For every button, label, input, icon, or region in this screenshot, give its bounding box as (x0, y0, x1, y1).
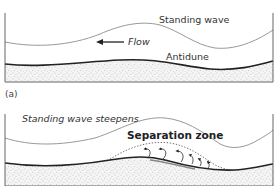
flow-arrow (96, 39, 124, 45)
sediment-bed-a (5, 60, 273, 82)
sediment-bed-b (5, 157, 273, 186)
panel-a-label: (a) (5, 89, 18, 99)
panel-b: Standing wave steepens Separation zone (5, 113, 273, 186)
vortex-arrow-6 (208, 162, 209, 168)
standing-wave-label: Standing wave (159, 14, 230, 25)
steepened-wave-label: Standing wave steepens (22, 113, 139, 124)
antidune-diagram: Flow Standing wave Antidune (a) Standing… (0, 0, 278, 186)
vortex-arrow-4 (190, 155, 193, 164)
vortex-arrow-2 (160, 149, 166, 159)
panel-a: Flow Standing wave Antidune (a) (5, 13, 273, 99)
vortex-arrow-3 (177, 151, 183, 162)
flow-label: Flow (128, 36, 150, 47)
separation-zone-label: Separation zone (127, 129, 223, 141)
vortex-arrow-5 (199, 159, 201, 166)
antidune-label: Antidune (166, 51, 209, 62)
